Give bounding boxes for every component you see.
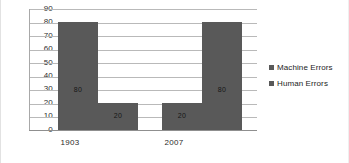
bar-value-label: 80	[58, 86, 98, 93]
bar-1903-machine-errors[interactable]: 80	[58, 22, 98, 130]
bar-chart: 90 80 70 60 50 40 30 20 10 0 80 20	[0, 0, 349, 163]
bar-value-label: 20	[98, 112, 138, 119]
legend-item-label: Human Errors	[277, 79, 328, 88]
bar-value-label: 80	[202, 86, 242, 93]
legend-item-human-errors[interactable]: Human Errors	[269, 79, 349, 88]
legend: Machine Errors Human Errors	[269, 63, 349, 95]
bar-2007-machine-errors[interactable]: 20	[162, 103, 202, 130]
bar-2007-human-errors[interactable]: 80	[202, 22, 242, 130]
legend-swatch-icon	[269, 81, 274, 86]
bar-value-label: 20	[162, 112, 202, 119]
plot-area: 80 20 20 80	[29, 9, 257, 131]
legend-swatch-icon	[269, 65, 274, 70]
x-axis-tick-2007: 2007	[144, 138, 204, 147]
legend-item-label: Machine Errors	[277, 63, 333, 72]
x-axis-tick-1903: 1903	[40, 138, 100, 147]
bars-layer: 80 20 20 80	[29, 9, 257, 131]
bar-1903-human-errors[interactable]: 20	[98, 103, 138, 130]
legend-item-machine-errors[interactable]: Machine Errors	[269, 63, 349, 72]
